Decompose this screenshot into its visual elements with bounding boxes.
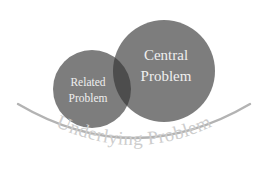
central-problem-label-line1: Central — [144, 47, 188, 63]
related-problem-label-line1: Related — [70, 76, 105, 88]
diagram-canvas: Related Problem Central Problem Underlyi… — [0, 0, 267, 194]
central-problem-label-line2: Problem — [141, 68, 192, 84]
problem-venn-diagram: Related Problem Central Problem Underlyi… — [0, 0, 267, 194]
related-problem-label-line2: Problem — [69, 92, 108, 104]
